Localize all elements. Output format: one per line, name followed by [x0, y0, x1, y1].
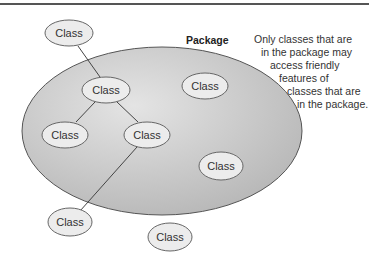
note-line-3: access friendly — [270, 59, 339, 72]
class-label: Class — [156, 231, 184, 243]
note-line-2: in the package may — [261, 46, 352, 59]
class-node-c4[interactable]: Class — [124, 122, 170, 148]
class-label: Class — [92, 84, 120, 96]
note-line-4: features of — [279, 72, 329, 85]
class-label: Class — [191, 80, 219, 92]
class-label: Class — [207, 160, 235, 172]
class-label: Class — [133, 129, 161, 141]
note-line-6: in the package. — [297, 98, 368, 111]
class-node-c6[interactable]: Class — [199, 152, 243, 180]
class-node-c3[interactable]: Class — [42, 122, 88, 148]
class-node-c7[interactable]: Class — [48, 208, 92, 236]
package-label: Package — [186, 34, 229, 46]
class-node-c2[interactable]: Class — [82, 77, 130, 103]
class-label: Class — [51, 129, 79, 141]
class-node-c8[interactable]: Class — [148, 223, 192, 251]
class-label: Class — [56, 216, 84, 228]
note-line-1: Only classes that are — [254, 33, 352, 46]
class-node-c5[interactable]: Class — [182, 73, 228, 99]
class-label: Class — [55, 27, 83, 39]
note-line-5: classes that are — [287, 85, 361, 98]
class-node-c1[interactable]: Class — [45, 20, 93, 46]
